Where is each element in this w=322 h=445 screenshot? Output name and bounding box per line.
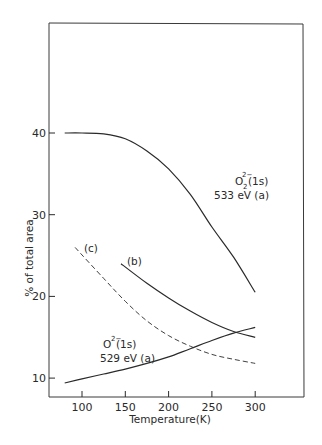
x-tick-label: 100 xyxy=(72,401,93,414)
x-tick-label: 300 xyxy=(245,401,266,414)
series-b xyxy=(121,264,255,338)
label-533-orbital: (1s) xyxy=(248,175,268,187)
y-axis-title: % of total area xyxy=(23,219,35,297)
y-tick-label: 10 xyxy=(32,372,46,385)
x-axis-ticks: 100150200250300 xyxy=(72,391,266,414)
right-border xyxy=(303,24,304,397)
series-peroxide-533ev xyxy=(65,133,256,292)
label-curve-c: (c) xyxy=(84,242,98,254)
data-series xyxy=(65,133,256,383)
label-curve-b: (b) xyxy=(127,255,142,267)
label-529-energy: 529 eV (a) xyxy=(100,352,155,364)
label-529-orbital: (1s) xyxy=(116,338,136,350)
y-axis-ticks: 10203040 xyxy=(32,127,55,385)
y-tick-label: 40 xyxy=(32,127,46,140)
top-border xyxy=(49,23,303,24)
series-oxide-529ev xyxy=(65,327,256,383)
x-axis-title: Temperature(K) xyxy=(128,413,211,425)
xps-temperature-chart: 100150200250300 10203040 Temperature(K) … xyxy=(0,0,322,445)
plot-frame xyxy=(49,23,304,397)
annotation-533: O 2 2− (1s) 533 eV (a) xyxy=(214,171,269,201)
label-533-energy: 533 eV (a) xyxy=(214,189,269,201)
annotation-529: O 2− (1s) 529 eV (a) xyxy=(100,335,155,364)
